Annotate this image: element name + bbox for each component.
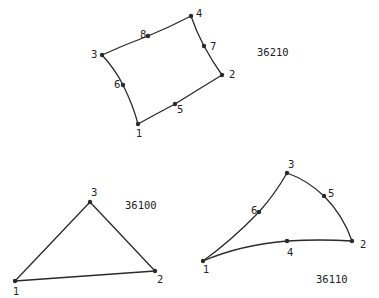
edge-1-2 [15,271,155,281]
element-36110: 1 2 3 4 5 6 36110 [201,159,367,285]
node-2 [153,269,157,273]
node-label-4: 4 [196,8,202,19]
element-id-label: 36210 [257,46,289,58]
node-1 [136,122,140,126]
node-1 [13,279,17,283]
node-3 [88,200,92,204]
element-id-label: 36100 [125,199,157,211]
edge-1-5-2 [138,75,222,124]
edge-2-5-3 [287,173,352,241]
node-6 [257,210,261,214]
node-2 [350,239,354,243]
edge-3-1 [15,202,90,281]
node-label-4: 4 [287,247,293,258]
node-label-6: 6 [251,205,257,216]
node-6 [121,83,125,87]
node-label-3: 3 [91,187,97,198]
node-label-8: 8 [140,29,146,40]
node-label-7: 7 [210,41,216,52]
node-label-1: 1 [203,264,209,275]
node-3 [100,53,104,57]
node-2 [220,73,224,77]
node-label-3: 3 [91,49,97,60]
element-id-label: 36110 [316,273,348,285]
node-label-2: 2 [229,69,235,80]
node-label-3: 3 [288,159,294,170]
node-label-5: 5 [177,104,183,115]
element-36210: 1 2 3 4 5 6 7 8 36210 [91,8,289,139]
node-4 [285,239,289,243]
node-label-5: 5 [328,188,334,199]
edge-2-7-4 [191,16,222,75]
node-label-1: 1 [136,128,142,139]
node-label-2: 2 [157,274,163,285]
element-36100: 1 2 3 36100 [13,187,164,297]
node-7 [202,44,206,48]
element-diagram: 1 2 3 4 5 6 7 8 36210 1 2 3 36100 1 2 3 [0,0,379,298]
node-3 [285,171,289,175]
node-8 [146,34,150,38]
node-label-2: 2 [360,239,366,250]
edge-2-3 [90,202,155,271]
node-4 [189,14,193,18]
node-1 [201,259,205,263]
node-5 [322,194,326,198]
node-label-1: 1 [13,286,19,297]
node-label-6: 6 [114,79,120,90]
